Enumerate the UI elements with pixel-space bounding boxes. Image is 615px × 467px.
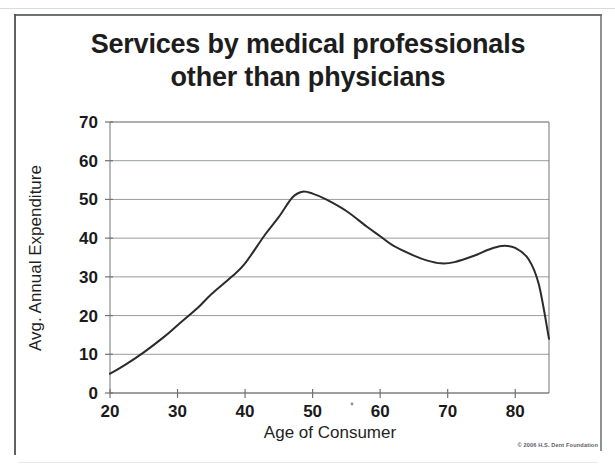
chart-plot-border [110,122,549,393]
series-path-avg-annual-expenditure [110,192,549,374]
y-tick-label-50: 50 [79,190,98,209]
chart-data-series-line [110,192,549,374]
chart-y-ticks [105,122,113,393]
line-chart: 20304050607080 010203040506070 Age of Co… [0,0,615,467]
x-tick-label-30: 30 [168,402,187,421]
chart-x-axis-label: Age of Consumer [264,423,397,442]
x-tick-label-20: 20 [101,402,120,421]
y-tick-label-30: 30 [79,268,98,287]
chart-gridlines [110,122,549,393]
scan-speck-artifact [351,403,354,406]
x-tick-label-70: 70 [438,402,457,421]
slide-canvas: Services by medical professionals other … [0,0,615,467]
chart-y-axis-label: Avg. Annual Expenditure [26,165,45,351]
x-tick-label-50: 50 [303,402,322,421]
copyright-notice: © 2006 H.S. Dent Foundation [517,442,598,448]
y-tick-label-0: 0 [89,384,98,403]
y-tick-label-40: 40 [79,229,98,248]
y-tick-label-60: 60 [79,152,98,171]
x-tick-label-60: 60 [371,402,390,421]
x-tick-label-80: 80 [506,402,525,421]
y-tick-label-10: 10 [79,345,98,364]
chart-x-tick-labels: 20304050607080 [101,402,525,421]
y-tick-label-70: 70 [79,113,98,132]
x-tick-label-40: 40 [236,402,255,421]
chart-y-tick-labels: 010203040506070 [79,113,98,403]
y-tick-label-20: 20 [79,307,98,326]
